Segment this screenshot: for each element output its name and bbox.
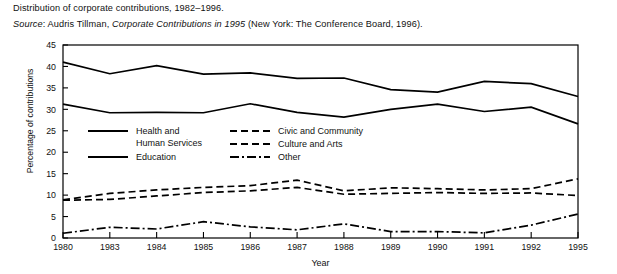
x-tick-label: 1984 [147,242,167,252]
source-author: Audris Tillman, [48,19,112,29]
x-tick-label: 1989 [381,242,401,252]
caption-line-source: Source: Audris Tillman, Corporate Contri… [13,18,613,31]
legend-label: Other [278,152,301,162]
x-tick-label: 1995 [568,242,588,252]
x-tick-label: 1991 [475,242,495,252]
y-tick-label: 45 [46,40,56,50]
y-tick-label: 20 [46,147,56,157]
caption-line-1: Distribution of corporate contributions,… [13,2,613,15]
legend-label-line2: Human Services [136,138,203,148]
series-line [63,214,578,233]
source-title: Corporate Contributions in 1995 [112,19,245,29]
series-line [63,104,578,124]
y-tick-label: 30 [46,105,56,115]
legend-label: Health and [136,126,180,136]
legend-label: Civic and Community [278,126,364,136]
y-axis-label: Percentage of contributions [25,61,35,181]
x-tick-label: 1983 [100,242,120,252]
source-rest: (New York: The Conference Board, 1996). [245,19,422,29]
series-line [63,62,578,96]
x-tick-label: 1992 [521,242,541,252]
caption-block: Distribution of corporate contributions,… [13,2,613,31]
y-tick-label: 25 [46,126,56,136]
line-chart-svg: 051015202530354045 198019831984198519861… [0,38,617,274]
x-axis-label: Year [311,258,329,268]
y-tick-label: 5 [51,212,56,222]
y-tick-label: 15 [46,169,56,179]
y-axis-ticks: 051015202530354045 [46,40,68,243]
y-tick-label: 35 [46,83,56,93]
x-tick-label: 1987 [287,242,307,252]
x-tick-label: 1985 [194,242,214,252]
chart-legend: Health andHuman ServicesEducationCivic a… [88,126,364,162]
y-tick-label: 10 [46,190,56,200]
x-tick-label: 1986 [240,242,260,252]
legend-label: Education [136,152,176,162]
legend-label: Culture and Arts [278,139,343,149]
x-axis-ticks: 1980198319841985198619871988198919901991… [53,232,588,252]
source-label: Source [13,19,43,29]
x-tick-label: 1990 [428,242,448,252]
chart-area: Percentage of contributions 051015202530… [0,38,617,274]
y-tick-label: 40 [46,62,56,72]
x-tick-label: 1988 [334,242,354,252]
figure-container: Distribution of corporate contributions,… [0,0,617,274]
x-tick-label: 1980 [53,242,73,252]
